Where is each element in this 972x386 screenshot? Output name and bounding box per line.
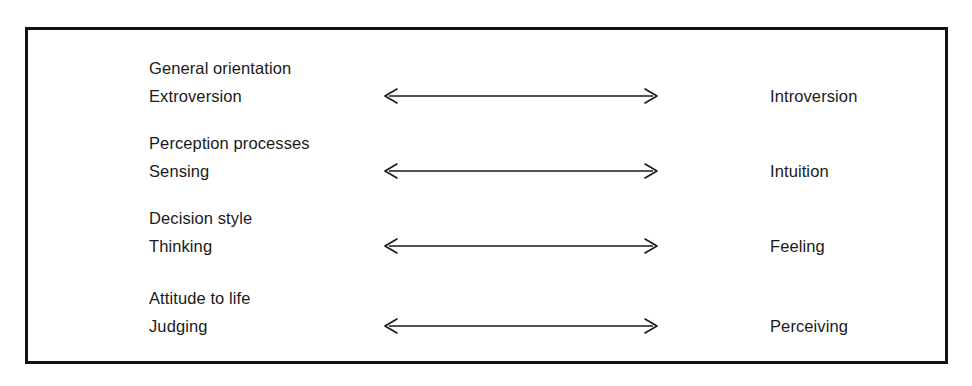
dimension-left-pole-label: Sensing [149, 161, 209, 181]
double-headed-arrow-icon [381, 315, 661, 337]
dimension-category-label: General orientation [149, 58, 291, 78]
dimension-left-pole-label: Judging [149, 316, 208, 336]
dimension-left-pole-label: Thinking [149, 236, 212, 256]
double-headed-arrow-icon [381, 235, 661, 257]
dimension-right-pole-label: Perceiving [770, 316, 848, 336]
dimension-right-pole-label: Feeling [770, 236, 825, 256]
dimension-row: General orientation Extroversion Introve… [28, 58, 945, 120]
dimension-right-pole-label: Intuition [770, 161, 829, 181]
figure-root: General orientation Extroversion Introve… [0, 0, 972, 386]
dimension-row: Attitude to life Judging Perceiving [28, 288, 945, 350]
figure-border-frame: General orientation Extroversion Introve… [25, 27, 948, 364]
dimension-category-label: Attitude to life [149, 288, 251, 308]
double-headed-arrow-icon [381, 85, 661, 107]
double-headed-arrow-icon [381, 160, 661, 182]
dimension-left-pole-label: Extroversion [149, 86, 242, 106]
dimension-row: Decision style Thinking Feeling [28, 208, 945, 270]
dimension-category-label: Perception processes [149, 133, 310, 153]
dimension-right-pole-label: Introversion [770, 86, 857, 106]
dimension-category-label: Decision style [149, 208, 252, 228]
dimension-row: Perception processes Sensing Intuition [28, 133, 945, 195]
